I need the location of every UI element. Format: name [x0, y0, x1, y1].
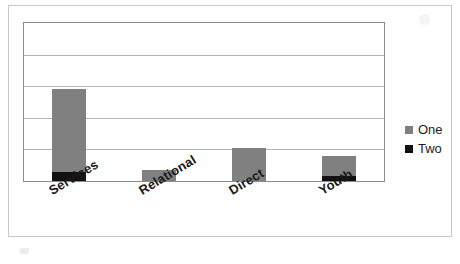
chart-card: ServicesRelationalDirectYouth One Two — [8, 5, 452, 237]
legend-item-label: Two — [418, 142, 442, 155]
scan-artifact — [419, 14, 430, 25]
gridline — [24, 55, 384, 56]
legend-item-two[interactable]: Two — [405, 139, 443, 158]
plot-area — [23, 22, 385, 182]
square-icon — [405, 126, 413, 134]
chart-legend: One Two — [405, 120, 443, 158]
legend-item-one[interactable]: One — [405, 120, 443, 139]
gridline — [24, 86, 384, 87]
bar-segment-one — [52, 89, 86, 171]
scan-artifact — [20, 248, 29, 254]
square-icon — [405, 145, 413, 153]
legend-item-label: One — [418, 123, 443, 136]
